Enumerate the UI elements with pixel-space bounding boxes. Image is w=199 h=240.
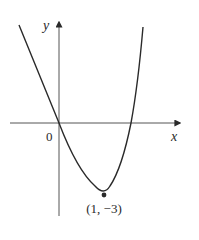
parabola-curve [19, 25, 143, 191]
vertex-point [102, 193, 107, 198]
vertex-label: (1, −3) [86, 201, 122, 216]
y-axis-label: y [41, 18, 50, 33]
x-axis-label: x [170, 129, 178, 144]
origin-label: 0 [46, 129, 53, 144]
parabola-graph: y x 0 (1, −3) [0, 0, 199, 240]
